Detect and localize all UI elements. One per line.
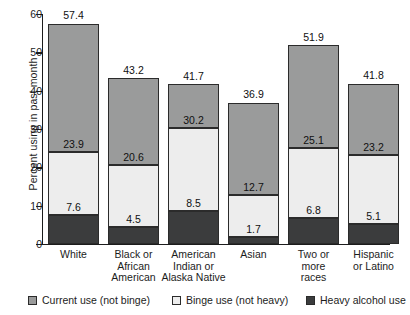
bar-segment-binge[interactable]	[228, 195, 279, 237]
bar-segment-heavy[interactable]	[348, 224, 399, 244]
y-tick-mark	[36, 14, 42, 15]
legend-item[interactable]: Heavy alcohol use	[306, 295, 406, 306]
bar-segment-binge[interactable]	[108, 165, 159, 227]
x-axis-category-line: American	[159, 249, 228, 261]
value-label-total: 36.9	[228, 89, 279, 100]
bar-segment-binge[interactable]	[288, 148, 339, 218]
value-label-total: 57.4	[48, 10, 99, 21]
chart-legend: Current use (not binge)Binge use (not he…	[0, 292, 410, 312]
bar-stack: 4.520.6	[108, 78, 159, 244]
x-axis-category-line: White	[39, 249, 108, 261]
y-tick-50: 50	[0, 52, 42, 53]
y-tick-0: 0	[0, 244, 42, 245]
x-axis-category-line: or Latino	[339, 261, 408, 273]
legend-swatch-icon	[172, 296, 181, 305]
legend-item[interactable]: Binge use (not heavy)	[172, 295, 288, 306]
bar-segment-heavy[interactable]	[288, 218, 339, 244]
y-axis-line	[42, 14, 43, 245]
bar-segment-current[interactable]	[48, 24, 99, 152]
y-tick-30: 30	[0, 129, 42, 130]
bar-segment-heavy[interactable]	[48, 215, 99, 244]
x-axis-category-label: AmericanIndian orAlaska Native	[159, 249, 228, 284]
x-axis-category-line: American	[99, 272, 168, 284]
bar-group[interactable]: 5.123.241.8	[348, 84, 399, 244]
value-label-total: 41.8	[348, 70, 399, 81]
bar-stack: 7.623.9	[48, 24, 99, 244]
bar-segment-binge[interactable]	[348, 155, 399, 224]
bar-group[interactable]: 6.825.151.9	[288, 45, 339, 244]
y-tick-60: 60	[0, 14, 42, 15]
x-axis-category-line: Black or	[99, 249, 168, 261]
bar-stack: 6.825.1	[288, 45, 339, 244]
value-label-total: 51.9	[288, 32, 339, 43]
bar-group[interactable]: 1.712.736.9	[228, 103, 279, 244]
legend-swatch-icon	[306, 296, 315, 305]
bar-segment-current[interactable]	[228, 103, 279, 196]
bar-segment-current[interactable]	[108, 78, 159, 165]
bar-group[interactable]: 8.530.241.7	[168, 84, 219, 244]
y-tick-mark	[36, 91, 42, 92]
y-tick-10: 10	[0, 206, 42, 207]
bar-stack: 8.530.2	[168, 84, 219, 244]
y-tick-mark	[36, 52, 42, 53]
y-tick-20: 20	[0, 167, 42, 168]
legend-item[interactable]: Current use (not binge)	[28, 295, 150, 306]
legend-label: Heavy alcohol use	[320, 295, 406, 306]
x-axis-category-label: White	[39, 249, 108, 261]
bar-group[interactable]: 7.623.957.4	[48, 24, 99, 244]
y-tick-mark	[36, 167, 42, 168]
bar-stack: 5.123.2	[348, 84, 399, 244]
x-axis-category-label: Hispanicor Latino	[339, 249, 408, 272]
bar-segment-binge[interactable]	[168, 128, 219, 211]
bar-segment-current[interactable]	[288, 45, 339, 148]
legend-label: Current use (not binge)	[42, 295, 150, 306]
bar-segment-heavy[interactable]	[168, 211, 219, 244]
x-axis-category-label: Asian	[219, 249, 288, 261]
stacked-bar-chart: Percent using in past month 010203040506…	[0, 0, 410, 315]
bar-segment-current[interactable]	[168, 84, 219, 128]
legend-swatch-icon	[28, 296, 37, 305]
x-axis-category-label: Black orAfricanAmerican	[99, 249, 168, 284]
value-label-total: 43.2	[108, 65, 159, 76]
bar-segment-heavy[interactable]	[108, 227, 159, 244]
bar-segment-current[interactable]	[348, 84, 399, 155]
bar-stack: 1.712.7	[228, 103, 279, 244]
x-axis-category-line: Alaska Native	[159, 272, 228, 284]
x-axis-line	[42, 244, 390, 245]
bar-segment-binge[interactable]	[48, 152, 99, 214]
y-tick-40: 40	[0, 91, 42, 92]
x-axis-category-line: Hispanic	[339, 249, 408, 261]
y-tick-mark	[36, 206, 42, 207]
bar-segment-heavy[interactable]	[228, 237, 279, 244]
legend-label: Binge use (not heavy)	[186, 295, 288, 306]
x-axis-category-line: races	[279, 272, 348, 284]
x-axis-category-label: Two ormoreraces	[279, 249, 348, 284]
bar-group[interactable]: 4.520.643.2	[108, 78, 159, 244]
x-axis-category-line: Asian	[219, 249, 288, 261]
y-tick-mark	[36, 129, 42, 130]
value-label-total: 41.7	[168, 71, 219, 82]
x-axis-category-line: Two or	[279, 249, 348, 261]
